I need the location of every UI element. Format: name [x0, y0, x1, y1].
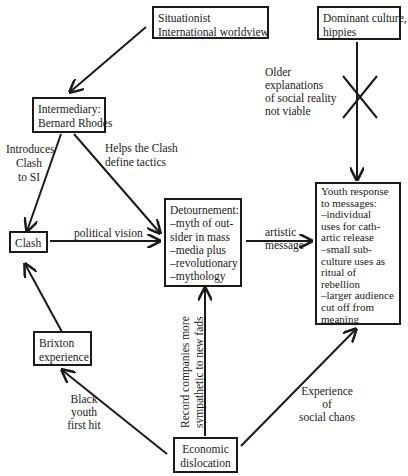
label-text: explanations	[265, 79, 337, 92]
node-text: Intermediary:	[38, 102, 100, 116]
node-text: sider in mass	[170, 231, 236, 244]
label-text: political vision	[74, 226, 143, 240]
label-text: Black	[64, 393, 104, 406]
label-text: to SI	[6, 170, 52, 184]
label-text: social chaos	[295, 411, 359, 424]
node-text: Detournement:	[170, 204, 236, 217]
node-dominant-culture: Dominant culture, hippies	[317, 6, 401, 40]
label-record-companies: Record companies more sympathetic to new…	[178, 316, 206, 428]
node-text: Youth response	[321, 186, 395, 198]
node-text: Brixton	[39, 336, 86, 350]
node-text: Clash	[15, 236, 42, 250]
node-text: cut off from	[321, 302, 395, 314]
node-text: Dominant culture,	[323, 11, 395, 25]
label-text: of social reality	[265, 92, 337, 105]
label-text: sympathetic to new fads	[192, 316, 206, 428]
label-text: Older	[265, 66, 337, 79]
edge-brixton-to-clash	[25, 264, 62, 332]
node-text: International worldview	[158, 25, 263, 39]
node-economic-dislocation: Economic dislocation	[173, 437, 238, 473]
label-text: Clash	[6, 156, 52, 170]
node-text: –media plus	[170, 244, 236, 257]
label-text: of	[295, 398, 359, 411]
node-detournement: Detournement: –myth of out- sider in mas…	[164, 198, 242, 287]
node-text: ritual of	[321, 267, 395, 279]
label-text: artistic	[265, 226, 304, 239]
label-text: Helps the Clash	[105, 141, 178, 155]
label-text: Introduces	[6, 142, 52, 156]
node-text: meaning	[321, 314, 395, 326]
node-situationist-worldview: Situationist International worldview	[152, 6, 269, 39]
label-text: first hit	[64, 419, 104, 432]
node-intermediary-bernard-rhodes: Intermediary: Bernard Rhodes	[32, 97, 106, 133]
node-text: dislocation	[179, 456, 232, 470]
label-black-youth: Black youth first hit	[64, 393, 104, 432]
label-text: define tactics	[105, 155, 178, 169]
label-older-explanations: Older explanations of social reality not…	[265, 66, 337, 118]
node-brixton-experience: Brixton experience	[33, 331, 92, 366]
label-helps-define-tactics: Helps the Clash define tactics	[105, 141, 178, 169]
node-text: Situationist	[158, 11, 263, 25]
label-text: Record companies more	[178, 316, 192, 428]
node-text: Economic	[179, 442, 232, 456]
label-experience-social-chaos: Experience of social chaos	[295, 385, 359, 424]
label-political-vision: political vision	[74, 226, 143, 240]
label-text: youth	[64, 406, 104, 419]
node-clash: Clash	[9, 231, 48, 253]
node-text: Bernard Rhodes	[38, 116, 100, 130]
node-text: hippies	[323, 25, 395, 39]
node-text: –revolutionary	[170, 257, 236, 270]
node-text: –small sub-	[321, 244, 395, 256]
node-youth-response: Youth response to messages: –individual …	[315, 182, 401, 325]
label-artistic-message: artistic message	[265, 226, 304, 252]
node-text: –mythology	[170, 270, 236, 283]
edge-situationist-to-intermediary	[70, 27, 146, 92]
label-text: Experience	[295, 385, 359, 398]
node-text: –myth of out-	[170, 217, 236, 230]
label-text: message	[265, 239, 304, 252]
node-text: experience	[39, 350, 86, 364]
label-text: not viable	[265, 105, 337, 118]
label-introduces-clash: Introduces Clash to SI	[6, 142, 52, 184]
